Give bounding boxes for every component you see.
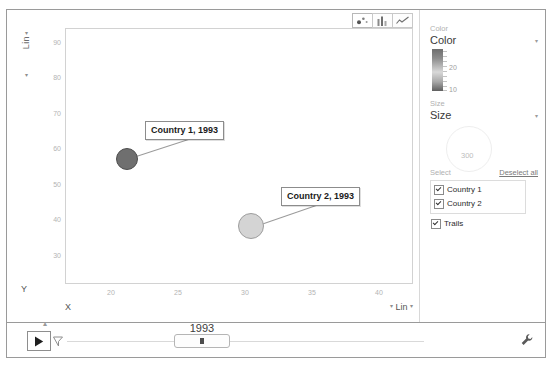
color-section-label: Color [430, 24, 538, 33]
y-tick: 40 [39, 216, 61, 223]
y-axis-name[interactable]: Y [21, 284, 27, 294]
y-tick: 70 [39, 110, 61, 117]
size-dropdown[interactable]: Size ▾ [430, 109, 538, 121]
play-button[interactable] [27, 331, 51, 351]
x-axis-ticks: 20 25 30 35 40 [65, 286, 413, 300]
timeline-caret-icon: ▴ [43, 319, 47, 328]
x-tick: 35 [300, 289, 324, 297]
y-tick: 90 [39, 39, 61, 46]
list-item[interactable]: Country 2 [433, 197, 523, 211]
timeline-bar: ▴ 1993 [7, 322, 546, 358]
x-tick: 25 [166, 289, 190, 297]
chevron-down-icon[interactable]: ▾ [535, 37, 538, 44]
control-panel: Color Color ▾ 20 10 Size Size ▾ 300 Sele… [419, 10, 546, 322]
country-select-list[interactable]: Country 1 Country 2 [430, 180, 526, 214]
x-tick: 20 [99, 289, 123, 297]
select-section-label: Select [430, 168, 451, 177]
x-scale-caret-left-icon[interactable]: ▾ [390, 303, 393, 309]
list-item-label: Country 1 [447, 184, 482, 196]
y-scale-selector[interactable]: Lin [21, 36, 31, 49]
trails-toggle[interactable]: Trails [430, 217, 538, 231]
y-scale-caret-top-icon[interactable]: ▾ [25, 30, 28, 36]
y-tick: 60 [39, 145, 61, 152]
bar-chart-icon[interactable] [372, 13, 393, 28]
visualization-window: Lin ▾ ▾ Y 90 80 70 60 50 40 30 Country 1… [6, 9, 546, 358]
chevron-down-icon[interactable]: ▾ [535, 112, 538, 119]
timeline-year-label: 1993 [174, 322, 230, 334]
color-dropdown[interactable]: Color ▾ [430, 34, 538, 46]
settings-wrench-icon[interactable] [520, 333, 534, 347]
color-legend-label: 10 [449, 86, 457, 93]
data-label-country-2[interactable]: Country 2, 1993 [281, 187, 360, 206]
chart-area: Lin ▾ ▾ Y 90 80 70 60 50 40 30 Country 1… [7, 10, 419, 322]
list-item[interactable]: Country 1 [433, 183, 523, 197]
checkbox-icon[interactable] [431, 219, 441, 229]
line-chart-icon[interactable] [392, 13, 413, 28]
y-scale-label: Lin [21, 36, 31, 49]
chart-type-toolbar [353, 13, 413, 28]
plot-area[interactable]: Country 1, 1993 Country 2, 1993 [65, 28, 413, 284]
x-tick: 40 [367, 289, 391, 297]
timeline-track[interactable] [67, 341, 424, 342]
x-scale-caret-right-icon[interactable]: ▾ [410, 303, 413, 309]
deselect-all-link[interactable]: Deselect all [499, 168, 538, 177]
y-scale-caret-bottom-icon[interactable]: ▾ [25, 72, 28, 78]
timeline-slider-thumb[interactable] [174, 334, 230, 348]
select-section-header: Select Deselect all [430, 168, 538, 178]
y-tick: 30 [39, 252, 61, 259]
bubble-chart-icon[interactable] [352, 13, 373, 28]
list-item-label: Country 2 [447, 198, 482, 210]
color-legend: 20 10 [430, 49, 538, 93]
x-axis-name[interactable]: X [65, 302, 71, 312]
size-legend-label: 300 [461, 151, 474, 160]
y-tick: 50 [39, 181, 61, 188]
size-section-label: Size [430, 99, 538, 108]
color-gradient-bar [432, 49, 443, 91]
x-tick: 30 [233, 289, 257, 297]
x-scale-selector[interactable]: ▾ Lin ▾ [390, 302, 413, 312]
size-legend: 300 [430, 124, 538, 164]
data-label-country-1[interactable]: Country 1, 1993 [145, 121, 224, 140]
checkbox-icon[interactable] [434, 185, 444, 195]
y-tick: 80 [39, 74, 61, 81]
trails-label: Trails [444, 218, 463, 230]
color-dropdown-value: Color [430, 34, 456, 46]
checkbox-icon[interactable] [434, 199, 444, 209]
x-scale-label: Lin [395, 302, 407, 312]
data-point-country-1[interactable] [116, 148, 138, 170]
size-legend-circle [446, 126, 492, 172]
speed-icon[interactable] [52, 334, 65, 347]
size-dropdown-value: Size [430, 109, 451, 121]
y-axis-ticks: 90 80 70 60 50 40 30 [31, 28, 61, 284]
data-point-country-2[interactable] [238, 213, 264, 239]
color-legend-label: 20 [449, 64, 457, 71]
